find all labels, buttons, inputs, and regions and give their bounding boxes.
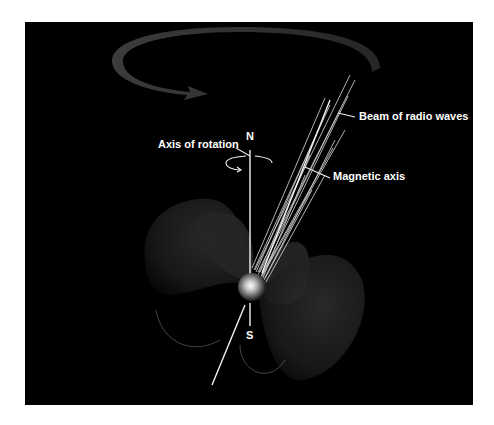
rotation-arrow-icon <box>112 27 380 100</box>
field-line-lower-left <box>156 310 220 347</box>
neutron-star <box>238 273 266 301</box>
rotation-axis-label: Axis of rotation <box>158 139 239 150</box>
magnetic-axis-label: Magnetic axis <box>333 171 405 182</box>
pulsar-diagram <box>0 0 494 425</box>
south-pole-label: S <box>246 330 253 341</box>
north-pole-label: N <box>246 131 254 142</box>
rotation-direction-icon <box>226 156 272 172</box>
beam-leader-line <box>338 113 355 117</box>
beam-label: Beam of radio waves <box>359 111 468 122</box>
